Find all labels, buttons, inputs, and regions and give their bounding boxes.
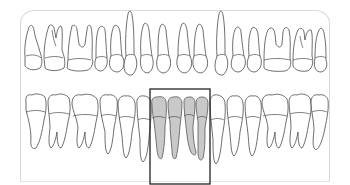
upper-tooth-1[interactable] [25,25,42,69]
lower-tooth-13[interactable] [245,96,261,156]
lower-tooth-4[interactable] [100,95,117,154]
lower-arch [26,94,328,164]
upper-tooth-12[interactable] [231,27,245,72]
lower-tooth-14[interactable] [262,94,288,148]
lower-tooth-11[interactable] [210,95,225,164]
upper-tooth-6[interactable] [124,11,137,75]
lower-tooth-5[interactable] [118,96,135,158]
upper-tooth-13[interactable] [247,27,261,72]
upper-tooth-3[interactable] [67,25,93,71]
upper-tooth-4[interactable] [95,26,107,71]
upper-tooth-14[interactable] [264,28,291,72]
upper-tooth-5[interactable] [109,25,124,72]
upper-tooth-8[interactable] [157,24,171,73]
lower-tooth-3[interactable] [72,94,98,148]
lower-tooth-1[interactable] [26,94,46,149]
upper-tooth-11[interactable] [215,11,228,75]
upper-tooth-7[interactable] [140,23,153,73]
lower-tooth-9[interactable] [184,97,196,155]
upper-tooth-16[interactable] [314,28,326,72]
lower-tooth-15[interactable] [289,94,311,148]
lower-tooth-16[interactable] [311,95,328,150]
lower-tooth-2[interactable] [48,94,70,148]
lower-tooth-10[interactable] [196,97,208,160]
upper-tooth-10[interactable] [193,24,208,73]
lower-tooth-8[interactable] [168,97,182,159]
lower-tooth-12[interactable] [227,96,243,156]
upper-tooth-15[interactable] [293,28,313,71]
upper-tooth-9[interactable] [177,23,192,73]
upper-arch [25,11,327,75]
upper-tooth-2[interactable] [44,25,65,71]
lower-tooth-7[interactable] [152,97,167,159]
dental-chart [0,0,350,185]
lower-tooth-6[interactable] [137,96,151,162]
